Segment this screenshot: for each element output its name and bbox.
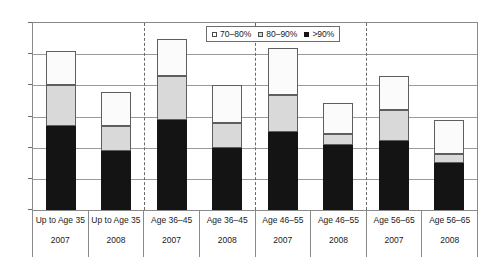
white-square-icon	[212, 32, 217, 37]
chart-legend: 70–80% 80–90% >90%	[206, 26, 340, 42]
bar-segment-70-80[interactable]	[157, 39, 187, 76]
x-axis-cell-2: Up to Age 352008	[89, 211, 145, 257]
bar-segment-80-90[interactable]	[434, 154, 464, 163]
x-axis-year-label: 2008	[440, 235, 459, 246]
bar-segment-80-90[interactable]	[46, 85, 76, 126]
x-axis-group-label: Age 46–55	[318, 215, 359, 226]
bar-segment-90-plus[interactable]	[212, 148, 242, 210]
bar-segment-90-plus[interactable]	[434, 163, 464, 210]
y-axis-tick-mark	[28, 22, 32, 23]
x-axis-cell-4: Age 36–452008	[200, 211, 256, 257]
y-axis-tick-mark	[28, 53, 32, 54]
x-axis-group-label: Age 56–65	[429, 215, 470, 226]
x-axis-year-label: 2007	[162, 235, 181, 246]
bar-segment-90-plus[interactable]	[46, 126, 76, 210]
x-axis-group-label: Age 36–45	[151, 215, 192, 226]
black-square-icon	[304, 32, 309, 37]
legend-label-90-plus: >90%	[312, 29, 334, 39]
x-axis-group-label: Age 36–45	[207, 215, 248, 226]
x-axis-group-label: Up to Age 35	[91, 215, 140, 226]
bar-6[interactable]	[323, 102, 353, 210]
bar-segment-90-plus[interactable]	[268, 132, 298, 210]
bar-8[interactable]	[434, 120, 464, 210]
bar-segment-70-80[interactable]	[101, 92, 131, 126]
x-axis-cell-1: Up to Age 352007	[33, 211, 89, 257]
legend-label-70-80: 70–80%	[220, 29, 251, 39]
legend-item-90-plus: >90%	[304, 29, 334, 39]
bar-segment-90-plus[interactable]	[379, 141, 409, 210]
x-axis-group-label: Age 56–65	[374, 215, 415, 226]
stacked-bar-chart: 0%10%20%30%40%50%60% 70–80% 80–90% >90% …	[0, 0, 491, 268]
bar-segment-80-90[interactable]	[323, 134, 353, 145]
bar-segment-80-90[interactable]	[212, 123, 242, 148]
x-axis-year-label: 2008	[329, 235, 348, 246]
y-axis-tick-mark	[28, 209, 32, 210]
y-axis-tick-mark	[28, 116, 32, 117]
legend-item-70-80: 70–80%	[212, 29, 251, 39]
bar-3[interactable]	[157, 39, 187, 210]
x-axis-cell-6: Age 46–552008	[311, 211, 367, 257]
bars-layer	[33, 23, 477, 210]
bar-4[interactable]	[212, 85, 242, 210]
x-axis-year-label: 2008	[218, 235, 237, 246]
x-axis-year-label: 2007	[51, 235, 70, 246]
x-axis-cell-8: Age 56–652008	[422, 211, 478, 257]
x-axis-year-label: 2007	[385, 235, 404, 246]
x-axis-year-label: 2007	[273, 235, 292, 246]
legend-item-80-90: 80–90%	[258, 29, 297, 39]
bar-segment-70-80[interactable]	[323, 103, 353, 134]
bar-segment-90-plus[interactable]	[101, 151, 131, 210]
x-axis-cell-5: Age 46–552007	[256, 211, 312, 257]
bar-segment-90-plus[interactable]	[157, 120, 187, 210]
bar-segment-70-80[interactable]	[212, 85, 242, 122]
bar-5[interactable]	[268, 48, 298, 210]
bar-7[interactable]	[379, 76, 409, 210]
x-axis-cell-7: Age 56–652007	[367, 211, 423, 257]
bar-1[interactable]	[46, 51, 76, 210]
x-axis-year-label: 2008	[106, 235, 125, 246]
bar-segment-90-plus[interactable]	[323, 145, 353, 210]
x-axis-cell-3: Age 36–452007	[144, 211, 200, 257]
y-axis-tick-mark	[28, 178, 32, 179]
x-axis-group-label: Age 46–55	[262, 215, 303, 226]
legend-label-80-90: 80–90%	[266, 29, 297, 39]
bar-2[interactable]	[101, 92, 131, 210]
bar-segment-70-80[interactable]	[46, 51, 76, 85]
bar-segment-80-90[interactable]	[157, 76, 187, 120]
y-axis-tick-mark	[28, 84, 32, 85]
plot-area	[32, 22, 478, 211]
bar-segment-70-80[interactable]	[434, 120, 464, 154]
gray-square-icon	[258, 32, 263, 37]
bar-segment-70-80[interactable]	[379, 76, 409, 110]
bar-segment-80-90[interactable]	[101, 126, 131, 151]
bar-segment-80-90[interactable]	[268, 95, 298, 132]
y-axis-tick-mark	[28, 147, 32, 148]
bar-segment-70-80[interactable]	[268, 48, 298, 95]
x-axis-group-label: Up to Age 35	[36, 215, 85, 226]
bar-segment-80-90[interactable]	[379, 110, 409, 141]
x-axis-label-table: Up to Age 352007Up to Age 352008Age 36–4…	[32, 211, 478, 257]
